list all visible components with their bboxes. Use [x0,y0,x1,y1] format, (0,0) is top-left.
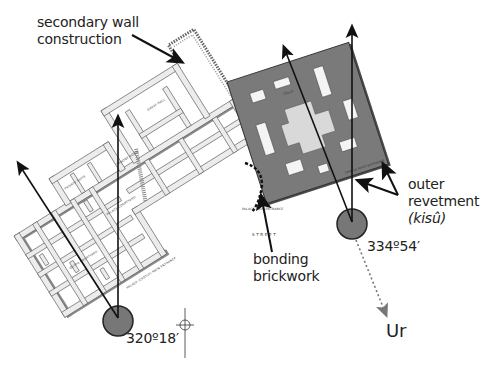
angle-label-right: 334º54′ [367,238,420,255]
annotation-bonding-brickwork: bonding brickwork [253,251,319,285]
annotation-secondary-wall: secondary wall construction [37,14,139,48]
annotation-outer-revetment: outer revetment (kisû) [408,176,479,227]
label-great-hall: GREAT HALL [147,97,167,111]
annotation-outer-line2: revetment [408,193,479,210]
palace-plan: GREAT HALL THRONE ROOM PRIVATE SUITE PAL… [0,28,294,326]
annotation-secondary-wall-line2: construction [37,31,139,48]
annotation-secondary-wall-line1: secondary wall [37,14,139,31]
annotation-bonding-line2: brickwork [253,268,319,285]
temple-plan: CELLA TEMPLE MAIN ENTRANCE [227,42,391,206]
label-street: S T R E E T [252,232,276,237]
annotation-outer-line3: (kisû) [408,210,479,227]
annotation-bonding-line1: bonding [253,251,319,268]
destination-label-ur: Ur [386,320,406,342]
annotation-outer-line1: outer [408,176,479,193]
angle-label-left: 320º18′ [126,330,179,347]
